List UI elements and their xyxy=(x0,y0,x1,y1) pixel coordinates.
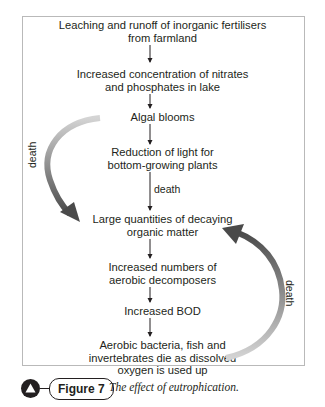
connector-line xyxy=(40,388,49,389)
triangle-badge-icon xyxy=(21,379,40,398)
arrows-layer xyxy=(0,0,325,407)
curved-arrow-right xyxy=(222,224,282,358)
figure-label: Figure 7 xyxy=(49,378,114,400)
curved-arrow-left xyxy=(47,118,100,222)
figure-caption: Figure 7 The effect of eutrophication. xyxy=(0,377,325,401)
caption-text: The effect of eutrophication. xyxy=(109,381,239,393)
